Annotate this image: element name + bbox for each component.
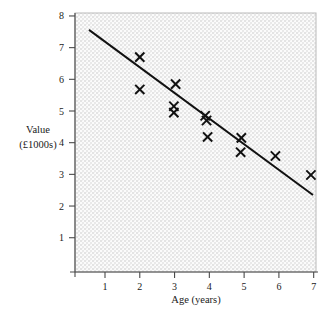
scatter-chart: 12345678 1234567 Value (£1000s) Age (yea…: [0, 0, 325, 317]
x-tick-label: 4: [207, 281, 212, 292]
y-tick-label: 5: [59, 106, 64, 117]
y-tick-label: 4: [59, 137, 64, 148]
x-axis-title: Age (years): [171, 294, 221, 306]
x-tick-label: 7: [311, 281, 316, 292]
y-axis-title-line2: (£1000s): [19, 139, 57, 151]
x-tick-label: 5: [242, 281, 247, 292]
plot-area-background: [75, 13, 316, 272]
y-axis-title-line1: Value: [26, 124, 50, 135]
y-tick-label: 2: [59, 201, 64, 212]
y-tick-label: 6: [59, 74, 64, 85]
chart-canvas: 12345678 1234567 Value (£1000s) Age (yea…: [0, 0, 325, 317]
x-axis: 1234567: [70, 272, 318, 292]
y-axis: 12345678: [59, 10, 75, 277]
y-tick-label: 3: [59, 169, 64, 180]
x-tick-label: 3: [172, 281, 177, 292]
x-tick-label: 6: [276, 281, 281, 292]
x-tick-label: 1: [103, 281, 108, 292]
y-tick-label: 7: [59, 42, 64, 53]
x-tick-label: 2: [137, 281, 142, 292]
y-tick-label: 8: [59, 10, 64, 21]
y-tick-label: 1: [59, 232, 64, 243]
